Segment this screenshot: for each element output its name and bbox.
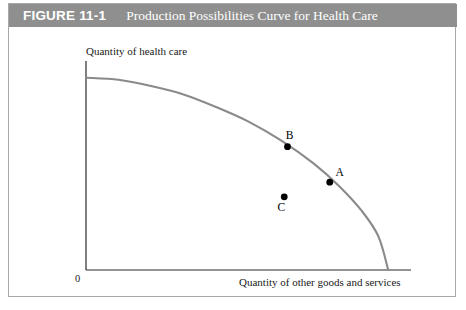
chart-plot-area: Quantity of health care 0 Quantity of ot… xyxy=(9,27,457,297)
ppf-chart: Quantity of health care 0 Quantity of ot… xyxy=(9,27,457,297)
point-label-b: B xyxy=(286,129,294,141)
origin-label: 0 xyxy=(75,273,80,284)
y-axis-label: Quantity of health care xyxy=(86,45,187,57)
point-label-c: C xyxy=(277,201,285,213)
point-marker-b xyxy=(284,143,291,150)
figure-container: FIGURE 11-1 Production Possibilities Cur… xyxy=(8,3,456,297)
point-marker-c xyxy=(281,193,288,200)
figure-title-label: Production Possibilities Curve for Healt… xyxy=(126,8,378,24)
figure-header-bar: FIGURE 11-1 Production Possibilities Cur… xyxy=(9,4,457,27)
x-axis-label: Quantity of other goods and services xyxy=(239,276,401,288)
annotation-layer: BAC xyxy=(277,129,344,213)
point-marker-a xyxy=(326,179,333,186)
point-label-a: A xyxy=(336,166,345,178)
data-point-c: C xyxy=(277,193,287,212)
figure-number-label: FIGURE 11-1 xyxy=(23,8,106,23)
